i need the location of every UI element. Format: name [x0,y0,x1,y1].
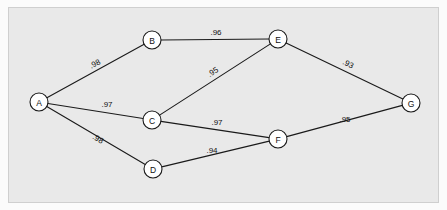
graph-edge-b-e [161,39,269,40]
figure-root: ABCDEFG .98.97.98.96.95.97.94.93.95 [0,0,447,210]
graph-node-c[interactable]: C [143,111,161,129]
graph-edge-a-c [48,103,143,118]
node-layer: ABCDEFG [30,30,420,178]
node-circle-e [269,30,287,48]
edge-weight-d-f: .94 [206,146,218,155]
graph-edge-e-g [286,43,403,99]
edge-weight-c-f: .97 [211,118,223,127]
graph-node-a[interactable]: A [30,93,48,111]
edge-layer [47,39,403,167]
node-circle-f [269,130,287,148]
graph-node-d[interactable]: D [144,160,162,178]
node-circle-b [143,31,161,49]
node-circle-c [143,111,161,129]
edge-weight-b-e: .96 [210,28,222,37]
graph-edge-c-e [160,44,271,115]
node-circle-g [402,94,420,112]
graph-node-g[interactable]: G [402,94,420,112]
graph-node-f[interactable]: F [269,130,287,148]
graph-edge-c-f [161,121,269,137]
edge-weight-a-c: .97 [101,100,113,109]
node-circle-d [144,160,162,178]
graph-edge-f-g [287,105,403,136]
graph-edge-a-d [47,107,145,165]
graph-edge-a-b [47,44,144,97]
graph-node-e[interactable]: E [269,30,287,48]
edge-weight-layer: .98.97.98.96.95.97.94.93.95 [88,28,356,155]
node-circle-a [30,93,48,111]
edge-weight-e-g: .93 [341,58,355,71]
graph-edge-d-f [162,141,270,167]
graph-node-b[interactable]: B [143,31,161,49]
graph-canvas: ABCDEFG .98.97.98.96.95.97.94.93.95 [0,0,447,210]
